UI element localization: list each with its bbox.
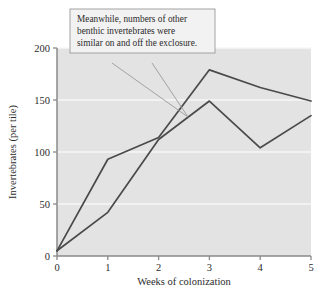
y-axis-title: Invertebrates (per tile) xyxy=(7,105,19,199)
y-tick-label: 200 xyxy=(34,43,50,54)
x-tick-label: 2 xyxy=(156,262,161,273)
x-tick-label: 0 xyxy=(54,262,59,273)
x-tick-label: 1 xyxy=(105,262,110,273)
callout-text-line-1: Meanwhile, numbers of other xyxy=(77,14,188,24)
y-tick-label: 150 xyxy=(34,95,50,106)
y-tick-label: 50 xyxy=(40,199,51,210)
x-tick-label: 3 xyxy=(207,262,212,273)
y-tick-label: 0 xyxy=(45,251,50,262)
x-tick-label: 5 xyxy=(308,262,313,273)
callout-text-line-2: benthic invertebrates were xyxy=(77,26,175,36)
callout-text-line-3: similar on and off the exclosure. xyxy=(77,38,197,48)
x-axis-title: Weeks of colonization xyxy=(137,276,231,287)
chart-figure: 050100150200 012345 Meanwhile, numbers o… xyxy=(0,0,329,295)
x-tick-label: 4 xyxy=(258,262,264,273)
invertebrates-line-chart: 050100150200 012345 Meanwhile, numbers o… xyxy=(0,0,329,295)
y-tick-label: 100 xyxy=(34,147,50,158)
